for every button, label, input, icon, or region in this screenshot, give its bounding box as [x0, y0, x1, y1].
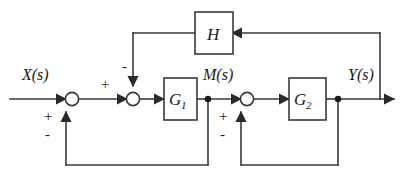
sign-sum2-plus: +	[101, 76, 109, 92]
summing-junction-3	[240, 92, 253, 105]
signal-label-input-x: X(s)	[21, 66, 49, 84]
signal-label-output-y: Y(s)	[348, 66, 374, 84]
branch-node-m	[205, 96, 211, 102]
summing-junction-1	[65, 92, 78, 105]
block-g1-label: G	[169, 90, 181, 109]
block-g2-subscript: 2	[306, 99, 312, 111]
sign-sum2-minus: -	[122, 58, 127, 74]
block-diagram-canvas: G 1 G 2 H X(s) M(s) Y(s) + - + - + -	[0, 0, 406, 181]
block-g1-subscript: 1	[181, 99, 187, 111]
sign-sum3-minus: -	[220, 126, 225, 142]
block-g2-label: G	[294, 90, 306, 109]
block-h-label: H	[206, 25, 221, 44]
summing-junction-2	[126, 92, 139, 105]
branch-node-y	[335, 96, 341, 102]
signal-label-intermediate-m: M(s)	[202, 66, 233, 84]
block-diagram: G 1 G 2 H X(s) M(s) Y(s) + - + - + -	[0, 0, 406, 181]
sign-sum1-minus: -	[45, 126, 50, 142]
sign-sum1-plus: +	[44, 108, 52, 124]
sign-sum3-plus: +	[219, 108, 227, 124]
